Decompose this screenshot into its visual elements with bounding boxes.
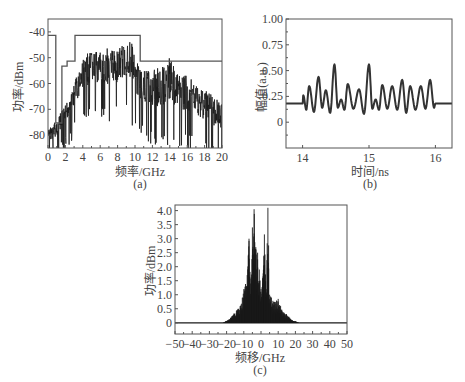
tick-label: -80 bbox=[29, 128, 45, 142]
tick-label: 0 bbox=[277, 115, 283, 129]
tick-label: 2.5 bbox=[157, 246, 172, 260]
chart-a-ylabel: 功率/dBm bbox=[9, 47, 27, 127]
tick-label: -60 bbox=[29, 77, 45, 91]
tick-label: 4.0 bbox=[157, 204, 172, 218]
chart-c-panel-label: (c) bbox=[240, 363, 280, 378]
tick-label: -70 bbox=[29, 102, 45, 116]
tick-label: -40 bbox=[29, 25, 45, 39]
tick-label: 16 bbox=[181, 150, 193, 164]
tick-label: 1.00 bbox=[262, 12, 283, 26]
spectrum-bars bbox=[223, 208, 298, 323]
tick-label: −40 bbox=[183, 337, 202, 351]
chart-b-panel-label: (b) bbox=[350, 177, 390, 192]
tick-label: 0 bbox=[166, 316, 172, 330]
tick-label: 4 bbox=[80, 150, 86, 164]
tick-label: 2 bbox=[62, 150, 68, 164]
chart-b-ylabel: 幅值(a.u.) bbox=[252, 42, 270, 132]
tick-label: 16 bbox=[429, 151, 441, 165]
chart-c-ylabel: 功率/dBm bbox=[141, 231, 159, 311]
tick-label: 50 bbox=[341, 337, 353, 351]
tick-label: 3.5 bbox=[157, 218, 172, 232]
tick-label: −30 bbox=[200, 337, 219, 351]
tick-label: 0 bbox=[45, 150, 51, 164]
plot-frame bbox=[286, 19, 452, 148]
tick-label: 3.0 bbox=[157, 232, 172, 246]
tick-label: −50 bbox=[166, 337, 185, 351]
tick-label: 20 bbox=[216, 150, 228, 164]
tick-label: 1.5 bbox=[157, 274, 172, 288]
tick-label: 18 bbox=[199, 150, 211, 164]
tick-label: 1.0 bbox=[157, 288, 172, 302]
tick-label: 40 bbox=[324, 337, 336, 351]
tick-label: 14 bbox=[297, 151, 309, 165]
tick-label: 0.5 bbox=[157, 302, 172, 316]
pulse-line bbox=[286, 64, 452, 114]
tick-label: -50 bbox=[29, 51, 45, 65]
chart-a-panel-label: (a) bbox=[120, 177, 160, 192]
spectrum-line bbox=[48, 42, 222, 148]
tick-label: 30 bbox=[307, 337, 319, 351]
tick-label: 2.0 bbox=[157, 260, 172, 274]
